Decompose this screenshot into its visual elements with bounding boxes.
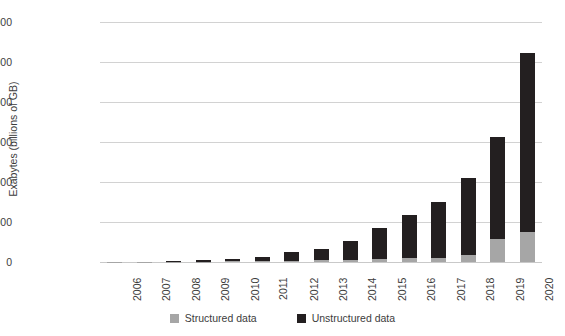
bar-stack xyxy=(402,215,417,262)
y-axis-tick-label: 40000 xyxy=(0,96,12,108)
legend-item-unstructured: Unstructured data xyxy=(297,312,395,324)
bar-segment-structured xyxy=(431,258,446,262)
bar-segment-structured xyxy=(490,239,505,262)
x-axis-tick-label: 2009 xyxy=(219,278,231,301)
y-axis-tick-label: 10000 xyxy=(0,216,12,228)
x-axis-tick-label: 2018 xyxy=(484,278,496,301)
x-axis-tick-label: 2019 xyxy=(513,278,525,301)
bar-segment-unstructured xyxy=(490,137,505,239)
bar-stack xyxy=(225,259,240,262)
bar-stack xyxy=(166,261,181,262)
legend-swatch-unstructured-icon xyxy=(297,314,306,323)
bar-stack xyxy=(372,228,387,262)
bar-stack xyxy=(520,53,535,262)
x-axis-tick-label: 2011 xyxy=(277,277,289,300)
y-axis-tick-label: 20000 xyxy=(0,176,12,188)
bar-segment-structured xyxy=(520,232,535,262)
plot-area xyxy=(100,22,542,262)
chart-legend: Structured data Unstructured data xyxy=(0,312,565,324)
x-axis-tick-label: 2017 xyxy=(455,278,467,301)
bar-segment-structured xyxy=(284,261,299,262)
bar-stack xyxy=(314,249,329,262)
bar-segment-structured xyxy=(343,260,358,262)
bar-segment-unstructured xyxy=(431,202,446,258)
chart-container: Exabytes (billions of GB) 60000500004000… xyxy=(0,0,565,336)
bar-segment-unstructured xyxy=(372,228,387,259)
x-axis-tick-label: 2010 xyxy=(248,278,260,301)
y-axis-tick-label: 0 xyxy=(0,256,12,268)
bar-segment-unstructured xyxy=(314,249,329,260)
bar-stack xyxy=(255,257,270,262)
bar-segment-structured xyxy=(314,260,329,262)
bar-stack xyxy=(284,252,299,262)
bar-stack xyxy=(196,260,211,262)
bar-stack xyxy=(490,137,505,262)
bar-segment-unstructured xyxy=(284,252,299,261)
legend-label-unstructured: Unstructured data xyxy=(312,312,395,324)
bar-stack xyxy=(343,241,358,262)
bar-segment-unstructured xyxy=(461,178,476,255)
bar-segment-structured xyxy=(461,255,476,262)
x-axis-tick-label: 2020 xyxy=(543,278,555,301)
bar-stack xyxy=(431,202,446,262)
x-axis-tick-labels: 2006200720082009201020112012201320142015… xyxy=(100,266,542,312)
y-axis-tick-label: 50000 xyxy=(0,56,12,68)
bar-series-group xyxy=(100,22,542,262)
x-axis-tick-label: 2006 xyxy=(130,278,142,301)
x-axis-tick-label: 2015 xyxy=(396,278,408,301)
y-axis-tick-label: 30000 xyxy=(0,136,12,148)
bar-stack xyxy=(461,178,476,262)
x-axis-tick-label: 2016 xyxy=(425,278,437,301)
legend-label-structured: Structured data xyxy=(185,312,257,324)
bar-segment-structured xyxy=(372,259,387,262)
x-axis-tick-label: 2007 xyxy=(160,278,172,301)
bar-segment-structured xyxy=(402,258,417,262)
bar-segment-structured xyxy=(255,261,270,262)
legend-item-structured: Structured data xyxy=(170,312,257,324)
legend-swatch-structured-icon xyxy=(170,314,179,323)
bar-segment-unstructured xyxy=(402,215,417,258)
y-axis-tick-label: 60000 xyxy=(0,16,12,28)
x-axis-tick-label: 2013 xyxy=(337,278,349,301)
bar-segment-structured xyxy=(225,261,240,262)
x-axis-tick-label: 2014 xyxy=(366,278,378,301)
bar-segment-unstructured xyxy=(520,53,535,232)
bar-segment-unstructured xyxy=(343,241,358,259)
x-axis-tick-label: 2008 xyxy=(189,278,201,301)
x-axis-tick-label: 2012 xyxy=(307,278,319,301)
